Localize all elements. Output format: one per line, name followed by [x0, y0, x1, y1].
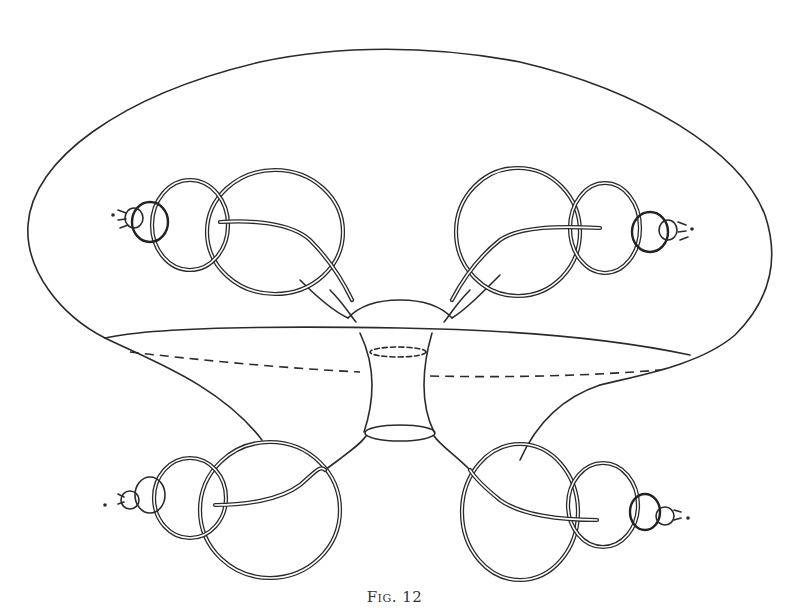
neck-bottom-rim [365, 425, 435, 441]
horned-sphere-figure [0, 0, 789, 614]
outer-surface-top [28, 49, 772, 385]
outer-surface-right-flank [520, 385, 600, 460]
equatorial-disc-front [105, 327, 690, 355]
equatorial-disc-back-right [430, 370, 660, 377]
upper-stem-left-in [330, 290, 356, 322]
lower-right-horn [462, 444, 690, 580]
upper-right-horn [452, 168, 694, 300]
neck-right [424, 333, 434, 432]
neck-top-rim [370, 347, 426, 357]
upper-stem-left [348, 300, 452, 318]
lower-left-horn [103, 442, 340, 578]
neck-left [360, 333, 372, 432]
equatorial-disc-back [130, 352, 360, 372]
figure-caption: Fig. 12 [0, 588, 789, 606]
upper-left-horn [111, 170, 352, 300]
outer-surface-left-flank [105, 338, 262, 440]
